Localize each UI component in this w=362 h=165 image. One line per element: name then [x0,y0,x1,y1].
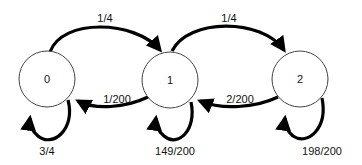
node-2: 2 [272,51,328,107]
node-0: 0 [19,51,75,107]
edge-2-to-1: 2/200 [200,93,278,107]
edge-label: 3/4 [39,145,54,157]
state-diagram: 1/4 1/4 1/200 2/200 3/4 149/200 198/200 … [0,0,362,165]
edge-label: 198/200 [302,145,342,157]
edge-1-to-2: 1/4 [172,12,284,51]
edge-0-to-1: 1/4 [50,12,160,52]
edge-label: 1/4 [221,12,236,24]
node-1: 1 [142,52,198,108]
edge-label: 1/200 [103,93,131,105]
node-label: 0 [44,73,50,85]
self-loop-0: 3/4 [30,100,70,157]
edge-1-to-0: 1/200 [78,93,148,107]
node-label: 1 [167,74,173,86]
self-loop-1: 149/200 [155,102,195,157]
edge-label: 2/200 [226,93,254,105]
edge-label: 149/200 [155,145,195,157]
self-loop-2: 198/200 [285,98,342,157]
edge-label: 1/4 [97,12,112,24]
node-label: 2 [297,73,303,85]
